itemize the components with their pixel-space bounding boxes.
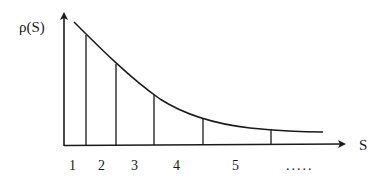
x-axis — [64, 144, 344, 146]
bin-label: 3 — [131, 158, 138, 173]
bin-label: 2 — [98, 158, 105, 173]
distribution-diagram: ρ(S) S 1 2 3 4 5 ..... — [0, 0, 384, 181]
density-curve — [74, 22, 323, 132]
bin-label: 1 — [69, 158, 76, 173]
bin-label: 4 — [173, 158, 180, 173]
y-axis-label: ρ(S) — [19, 19, 45, 36]
bin-label: 5 — [232, 158, 239, 173]
x-axis-label: S — [359, 137, 367, 153]
bin-label-ellipsis: ..... — [286, 158, 314, 173]
